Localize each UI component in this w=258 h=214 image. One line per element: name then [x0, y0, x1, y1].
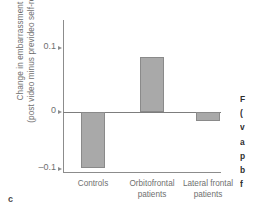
x-label-orbitofrontal-line1: Orbitofrontal: [129, 179, 174, 188]
bottom-axis-line: [63, 172, 221, 173]
y-axis-line: [63, 20, 64, 173]
x-label-orbitofrontal-patients: Orbitofrontal patients: [120, 178, 184, 200]
x-label-lateral-line2: patients: [194, 190, 223, 199]
plot-area: 0.1 0 –0.1 Controls Orbitofrontal patien…: [63, 20, 221, 173]
panel-letter: c: [8, 194, 13, 204]
caption-fragment-line-3: v: [240, 120, 258, 134]
y-tick-label-neg0.1: –0.1: [38, 163, 56, 172]
y-tick-label-0.1: 0.1: [43, 42, 56, 51]
y-axis-title-line2: (post video minus prevideo self-report): [26, 0, 37, 137]
y-axis-title-line1: Change in embarrassment: [16, 2, 25, 101]
caption-fragment-line-5: p: [240, 149, 258, 163]
y-tick-arrow-0: [58, 110, 62, 114]
caption-fragment-line-6: b: [240, 163, 258, 177]
y-axis-title: Change in embarrassment (post video minu…: [15, 0, 37, 137]
caption-fragment-line-4: a: [240, 135, 258, 149]
x-label-lateral-line1: Lateral frontal: [183, 179, 233, 188]
caption-fragment-line-7: f: [240, 177, 258, 191]
x-label-controls-line1: Controls: [78, 179, 109, 188]
caption-fragment-line-2: (: [240, 106, 258, 120]
x-label-controls: Controls: [61, 178, 125, 189]
bar-lateral-frontal-patients: [196, 112, 220, 121]
x-label-orbitofrontal-line2: patients: [138, 190, 167, 199]
caption-fragment-line-1: F: [240, 92, 258, 106]
caption-fragment: F ( v a p b f: [240, 92, 258, 191]
y-tick-label-0: 0: [51, 106, 56, 115]
y-tick-arrow-0.1: [58, 46, 62, 50]
bar-controls: [81, 112, 105, 168]
y-tick-arrow-neg0.1: [58, 167, 62, 171]
bar-orbitofrontal-patients: [140, 57, 164, 112]
x-label-lateral-frontal-patients: Lateral frontal patients: [176, 178, 240, 200]
figure-panel-c: Change in embarrassment (post video minu…: [0, 0, 258, 214]
